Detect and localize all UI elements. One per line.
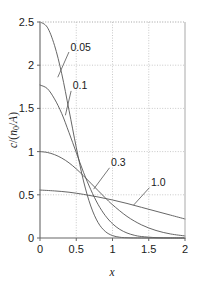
chart-figure: 00.511.52 00.511.522.5 0.050.10.31.0 x c… bbox=[0, 0, 200, 292]
concentration-profile-chart: 00.511.52 00.511.522.5 0.050.10.31.0 x c… bbox=[0, 0, 200, 292]
curve-label: 0.05 bbox=[70, 41, 91, 53]
y-tick-label: 1 bbox=[28, 146, 34, 158]
y-tick-label: 1.5 bbox=[19, 102, 34, 114]
curve-label: 1.0 bbox=[151, 176, 166, 188]
x-tick-label: 2 bbox=[182, 243, 188, 255]
curve-label: 0.1 bbox=[73, 79, 88, 91]
x-tick-label: 1 bbox=[109, 243, 115, 255]
y-tick-label: 2 bbox=[28, 59, 34, 71]
y-tick-label: 2.5 bbox=[19, 16, 34, 28]
x-axis-title: x bbox=[108, 266, 115, 278]
y-tick-label: 0.5 bbox=[19, 189, 34, 201]
x-tick-label: 0 bbox=[37, 243, 43, 255]
curve-label: 0.3 bbox=[111, 156, 126, 168]
x-tick-label: 0.5 bbox=[69, 243, 84, 255]
x-tick-label: 1.5 bbox=[141, 243, 156, 255]
y-tick-label: 0 bbox=[28, 232, 34, 244]
